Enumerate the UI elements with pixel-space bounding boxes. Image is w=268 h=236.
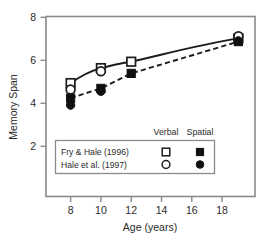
x-axis-ticks [71, 197, 223, 203]
legend-header-spatial: Spatial [187, 127, 214, 137]
memory-span-figure: 8 6 4 2 8 10 12 14 16 18 Age (years) Mem… [0, 0, 268, 236]
legend-row-fry-hale: Fry & Hale (1996) [61, 147, 204, 157]
legend-open-square-icon [162, 148, 170, 156]
chart-canvas: 8 6 4 2 8 10 12 14 16 18 Age (years) Mem… [0, 0, 268, 236]
legend-label-fry-hale: Fry & Hale (1996) [61, 147, 129, 157]
x-tick-label-14: 14 [156, 204, 168, 216]
plot-frame [46, 17, 255, 197]
y-tick-label-8: 8 [30, 11, 36, 23]
point-open-circle [66, 85, 75, 94]
legend-header-verbal: Verbal [154, 127, 179, 137]
marker-group-hale-verbal [66, 32, 243, 94]
y-axis-ticks [41, 17, 47, 146]
legend-label-hale-etal: Hale et al. (1997) [61, 160, 127, 170]
point-open-circle [97, 67, 106, 76]
legend-row-hale-etal: Hale et al. (1997) [61, 160, 204, 170]
x-axis-title: Age (years) [123, 221, 177, 233]
x-tick-label-18: 18 [216, 204, 228, 216]
point-filled-square [127, 69, 135, 77]
y-tick-label-6: 6 [30, 54, 36, 66]
x-tick-label-12: 12 [125, 204, 137, 216]
verbal-solid-line [71, 38, 239, 83]
y-tick-label-4: 4 [30, 97, 36, 109]
y-axis-title: Memory Span [7, 74, 19, 140]
legend-open-circle-icon [162, 161, 170, 169]
legend-column-headers: Verbal Spatial [154, 127, 214, 137]
legend-filled-square-icon [196, 148, 203, 155]
point-filled-circle [66, 101, 74, 109]
x-axis-tick-labels: 8 10 12 14 16 18 [68, 204, 228, 216]
legend-filled-circle-icon [196, 161, 204, 169]
point-open-square [127, 57, 136, 66]
x-tick-label-8: 8 [68, 204, 74, 216]
x-tick-label-16: 16 [186, 204, 198, 216]
point-filled-circle [234, 37, 242, 45]
x-tick-label-10: 10 [95, 204, 107, 216]
point-filled-circle [97, 87, 105, 95]
y-axis-tick-labels: 8 6 4 2 [30, 11, 36, 152]
y-tick-label-2: 2 [30, 140, 36, 152]
